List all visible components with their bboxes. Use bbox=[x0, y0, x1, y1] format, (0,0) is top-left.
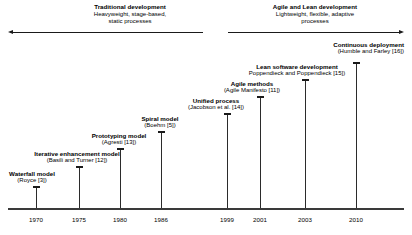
event-title: Continuous deployment bbox=[0, 41, 404, 48]
event-title: Iterative enhancement model bbox=[34, 150, 119, 157]
axis-tick-label: 1999 bbox=[212, 216, 242, 223]
axis-tick-label: 1970 bbox=[21, 216, 51, 223]
event-label-spiral-model: Spiral model(Boehm [5]) bbox=[141, 115, 178, 129]
era-arrow-traditional bbox=[13, 32, 203, 33]
event-stem bbox=[305, 79, 306, 208]
era-header-agile-lean: Agile and Lean development Lightweight, … bbox=[240, 4, 390, 24]
event-title: Prototyping model bbox=[92, 132, 147, 139]
axis-tick-label: 2001 bbox=[245, 216, 275, 223]
event-citation: (Royce [3]) bbox=[9, 177, 55, 184]
axis-tick-label: 1980 bbox=[105, 216, 135, 223]
event-stem bbox=[161, 131, 162, 208]
event-label-waterfall-model: Waterfall model(Royce [3]) bbox=[9, 170, 55, 184]
event-label-lean-software-development: Lean software developmentPoppendieck and… bbox=[249, 63, 345, 77]
event-stem-cap bbox=[224, 113, 231, 115]
event-citation: Poppendieck and Poppendieck [15]) bbox=[249, 70, 345, 77]
timeline-figure: Traditional development Heavyweight, sta… bbox=[0, 0, 412, 235]
event-label-iterative-enhancement-model: Iterative enhancement model(Basili and T… bbox=[34, 150, 119, 164]
era-title: Agile and Lean development bbox=[240, 4, 390, 11]
event-title: Lean software development bbox=[249, 63, 345, 70]
event-title: Spiral model bbox=[141, 115, 178, 122]
axis-tick-label: 1975 bbox=[64, 216, 94, 223]
event-citation: (Jacobson et al. [14]) bbox=[188, 104, 244, 111]
event-title: Waterfall model bbox=[9, 170, 55, 177]
era-subtitle-line1: Heavyweight, stage-based, bbox=[55, 11, 205, 18]
event-label-unified-process: Unified process(Jacobson et al. [14]) bbox=[188, 97, 244, 111]
era-arrow-agile-lean bbox=[228, 32, 399, 33]
event-citation: (Agresti [13]) bbox=[92, 139, 147, 146]
event-stem-cap bbox=[33, 186, 40, 188]
event-stem bbox=[227, 113, 228, 208]
event-stem-cap bbox=[302, 79, 309, 81]
event-citation: (Boehm [5]) bbox=[141, 122, 178, 129]
event-citation: (Agile Manifesto [11]) bbox=[224, 87, 280, 94]
event-stem bbox=[260, 96, 261, 208]
axis-tick-label: 2010 bbox=[341, 216, 371, 223]
era-title: Traditional development bbox=[55, 4, 205, 11]
event-stem bbox=[36, 186, 37, 208]
event-stem-cap bbox=[353, 62, 360, 64]
event-stem bbox=[356, 62, 357, 208]
event-stem-cap bbox=[158, 131, 165, 133]
arrow-head-left-icon bbox=[8, 30, 13, 34]
event-stem bbox=[79, 166, 80, 208]
event-title: Unified process bbox=[188, 97, 244, 104]
arrow-head-right-icon bbox=[399, 30, 404, 34]
era-subtitle-line1: Lightweight, flexible, adaptive bbox=[240, 11, 390, 18]
event-stem-cap bbox=[76, 166, 83, 168]
event-stem-cap bbox=[257, 96, 264, 98]
era-subtitle-line2: processes bbox=[240, 18, 390, 25]
event-label-prototyping-model: Prototyping model(Agresti [13]) bbox=[92, 132, 147, 146]
axis-tick-label: 1986 bbox=[146, 216, 176, 223]
event-citation: (Basili and Turner [12]) bbox=[34, 157, 119, 164]
era-header-traditional: Traditional development Heavyweight, sta… bbox=[55, 4, 205, 24]
timeline-axis bbox=[8, 208, 404, 210]
event-stem bbox=[120, 148, 121, 208]
event-citation: (Humble and Farley [16]) bbox=[0, 48, 404, 55]
event-label-agile-methods: Agile methods(Agile Manifesto [11]) bbox=[224, 80, 280, 94]
era-subtitle-line2: static processes bbox=[55, 18, 205, 25]
event-title: Agile methods bbox=[224, 80, 280, 87]
event-stem-cap bbox=[117, 148, 124, 150]
event-label-continuous-deployment: Continuous deployment(Humble and Farley … bbox=[0, 41, 404, 55]
axis-tick-label: 2003 bbox=[290, 216, 320, 223]
